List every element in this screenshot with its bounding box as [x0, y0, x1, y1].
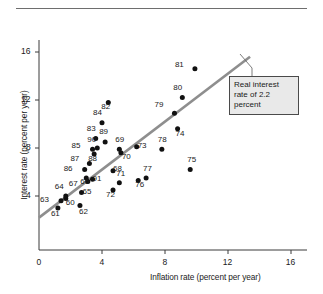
point-label-75: 75	[187, 155, 196, 164]
point-label-80: 80	[173, 83, 182, 92]
point-label-90: 90	[87, 135, 96, 144]
point-label-70: 70	[122, 152, 131, 161]
point-label-63: 63	[40, 195, 49, 204]
point-label-81: 81	[175, 60, 184, 69]
point-label-91: 91	[93, 174, 102, 183]
point-label-71: 71	[116, 169, 125, 178]
trendline-layer	[39, 57, 250, 218]
point-label-89: 89	[99, 127, 108, 136]
x-tick-label: 12	[223, 257, 232, 267]
point-label-79: 79	[154, 100, 163, 109]
callout-line-3: percent	[234, 100, 294, 110]
x-tick-label: 0	[36, 257, 41, 267]
point-label-62: 62	[79, 207, 88, 216]
y-tick-label: 16	[21, 46, 30, 56]
callout-line-1: Real interest	[234, 80, 294, 90]
point-label-64: 64	[55, 182, 64, 191]
x-tick-label: 4	[99, 257, 104, 267]
point-label-72: 72	[106, 190, 115, 199]
point-label-77: 77	[143, 164, 152, 173]
x-tick-label: 8	[162, 257, 167, 267]
point-label-73: 73	[138, 141, 147, 150]
real-interest-rate-callout: Real interest rate of 2.2 percent	[229, 76, 299, 115]
plot-canvas	[0, 0, 323, 294]
point-label-61: 61	[51, 209, 60, 218]
y-axis-title: Interest rate (percent per year)	[19, 60, 29, 230]
point-label-66: 66	[80, 177, 89, 186]
point-label-84: 84	[93, 108, 102, 117]
point-label-69: 69	[115, 135, 124, 144]
point-label-82: 82	[101, 102, 110, 111]
point-label-67: 67	[69, 179, 78, 188]
point-label-60: 60	[66, 198, 75, 207]
point-label-78: 78	[158, 135, 167, 144]
point-label-74: 74	[176, 129, 185, 138]
point-label-88: 88	[88, 154, 97, 163]
x-axis-title: Inflation rate (percent per year)	[150, 272, 261, 282]
x-tick-label: 16	[286, 257, 295, 267]
point-label-86: 86	[64, 164, 73, 173]
point-label-85: 85	[72, 141, 81, 150]
point-label-83: 83	[87, 124, 96, 133]
point-label-76: 76	[135, 180, 144, 189]
scatter-plot: 4812160481216 60616263646566676869707172…	[0, 0, 323, 294]
figure-root: 4812160481216 60616263646566676869707172…	[0, 0, 323, 294]
point-label-87: 87	[70, 154, 79, 163]
point-label-65: 65	[83, 187, 92, 196]
callout-line-2: rate of 2.2	[234, 90, 294, 100]
